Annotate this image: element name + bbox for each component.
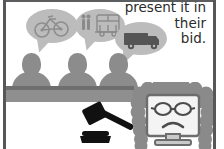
panel-border-top [3,0,216,2]
panel-border-right [213,0,216,149]
computer-monitor-judge [130,82,222,149]
truck-icon [115,22,167,55]
monitor-body [147,95,199,145]
speech-bubble-truck [115,22,167,55]
speech-bubble-bicycle [26,9,78,43]
comic-panel: present it in their bid. [0,0,224,149]
bench-lip [6,86,134,90]
bicycle-icon [26,9,78,43]
panel-border-left [3,0,6,149]
